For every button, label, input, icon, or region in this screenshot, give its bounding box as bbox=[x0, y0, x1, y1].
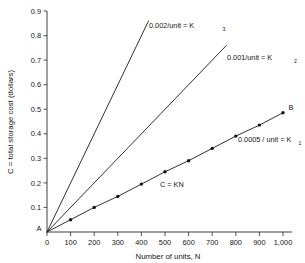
series-line-k2 bbox=[47, 45, 226, 232]
series-annotation-k3-text: 0.002/unit = K bbox=[149, 21, 194, 30]
data-point-marker bbox=[93, 206, 96, 209]
data-point-marker bbox=[69, 218, 72, 221]
series-annotation-k1: 0.0005 / unit = K 1 bbox=[238, 135, 302, 146]
x-tick-label: 400 bbox=[135, 238, 147, 247]
storage-cost-line-chart: 0.9 0.8 0.7 0.6 0.5 0.4 0.3 0.2 0.1 0 bbox=[0, 0, 305, 263]
x-tick-label: 300 bbox=[112, 238, 124, 247]
series-line-k3 bbox=[47, 21, 149, 232]
y-ticks-group bbox=[44, 11, 48, 207]
x-tick-label: 100 bbox=[64, 238, 76, 247]
series-annotation-k3: 0.002/unit = K 3 bbox=[149, 21, 226, 32]
y-axis-title: C = total storage cost (dollars) bbox=[6, 69, 15, 174]
y-tick-labels-group: 0.9 0.8 0.7 0.6 0.5 0.4 0.3 0.2 0.1 bbox=[31, 7, 41, 212]
y-tick-label: 0.8 bbox=[31, 31, 41, 40]
x-tick-label: 900 bbox=[253, 238, 265, 247]
data-point-marker bbox=[163, 170, 166, 173]
y-tick-label: 0.2 bbox=[31, 179, 41, 188]
x-tick-label: 0 bbox=[45, 238, 49, 247]
series-annotation-k2: 0.001/unit = K 2 bbox=[227, 53, 297, 64]
x-tick-label: 700 bbox=[206, 238, 218, 247]
x-tick-label: 500 bbox=[159, 238, 171, 247]
y-tick-label: 0.7 bbox=[31, 56, 41, 65]
series-annotation-k3-subscript: 3 bbox=[223, 26, 226, 32]
series-annotation-k2-subscript: 2 bbox=[294, 58, 297, 64]
x-axis-title: Number of units, N bbox=[136, 252, 201, 261]
y-tick-label: 0.1 bbox=[31, 203, 41, 212]
series-annotation-k1-text: 0.0005 / unit = K bbox=[238, 135, 291, 144]
data-point-marker bbox=[140, 182, 143, 185]
x-tick-label: 1,000 bbox=[274, 238, 293, 247]
y-tick-label: 0.9 bbox=[31, 7, 41, 16]
x-ticks-group bbox=[47, 232, 283, 236]
axes-group bbox=[47, 11, 292, 232]
x-tick-labels-group: 0 100 200 300 400 500 600 700 800 900 1,… bbox=[45, 238, 292, 247]
y-tick-label: 0.5 bbox=[31, 105, 41, 114]
data-point-marker bbox=[258, 123, 261, 126]
data-point-marker bbox=[234, 134, 237, 137]
series-annotation-k2-text: 0.001/unit = K bbox=[227, 53, 272, 62]
point-label-a: A bbox=[37, 224, 42, 233]
chart-figure: 0.9 0.8 0.7 0.6 0.5 0.4 0.3 0.2 0.1 0 bbox=[0, 0, 305, 263]
data-point-marker bbox=[211, 147, 214, 150]
x-tick-label: 600 bbox=[182, 238, 194, 247]
y-tick-label: 0.4 bbox=[31, 129, 41, 138]
x-tick-label: 200 bbox=[88, 238, 100, 247]
data-point-marker bbox=[116, 195, 119, 198]
equation-annotation: C = KN bbox=[160, 180, 184, 189]
x-tick-label: 800 bbox=[230, 238, 242, 247]
series-annotation-k1-subscript: 1 bbox=[299, 140, 302, 146]
point-label-b: B bbox=[289, 103, 294, 112]
y-tick-label: 0.6 bbox=[31, 80, 41, 89]
data-point-marker bbox=[187, 159, 190, 162]
y-tick-label: 0.3 bbox=[31, 154, 41, 163]
data-point-marker bbox=[281, 111, 284, 114]
